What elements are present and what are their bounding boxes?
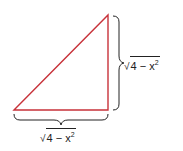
vertical-side-label: √4 − x2	[124, 56, 160, 72]
exponent: 2	[71, 131, 75, 138]
vertical-brace	[113, 16, 124, 110]
radicand: 4 − x2	[46, 128, 76, 144]
right-triangle	[14, 15, 108, 110]
radicand-text: 4 − x	[47, 132, 71, 144]
exponent: 2	[155, 59, 159, 66]
radicand-text: 4 − x	[131, 60, 155, 72]
horizontal-brace	[14, 114, 108, 125]
triangle-diagram	[0, 0, 183, 151]
radicand: 4 − x2	[130, 56, 160, 72]
horizontal-side-label: √4 − x2	[40, 128, 76, 144]
